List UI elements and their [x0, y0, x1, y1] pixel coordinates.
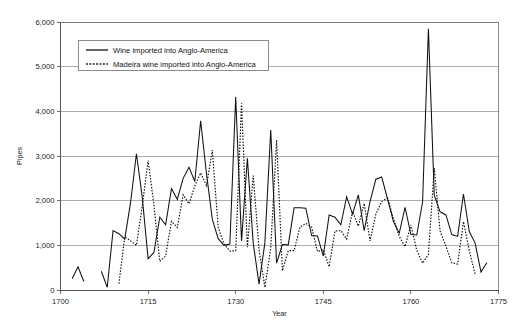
y-tick-label-5000: 5,000 [35, 62, 54, 71]
y-tick-label-6000: 6,000 [35, 18, 54, 27]
legend-label-1: Wine imported into Anglo-America [113, 46, 229, 55]
chart-legend: Wine imported into Anglo-AmericaMadeira … [78, 40, 268, 70]
x-tick-label-1700: 1700 [52, 297, 69, 306]
line-chart: 01,0002,0003,0004,0005,0006,000 17001715… [0, 0, 521, 332]
x-tick-label-1715: 1715 [140, 297, 157, 306]
y-tick-label-1000: 1,000 [35, 241, 54, 250]
y-tick-label-2000: 2,000 [35, 196, 54, 205]
x-axis-title: Year [272, 309, 287, 318]
legend-label-2: Madeira wine imported into Anglo-America [113, 60, 256, 69]
x-tick-label-1775: 1775 [490, 297, 507, 306]
y-tick-label-4000: 4,000 [35, 107, 54, 116]
x-tick-label-1760: 1760 [402, 297, 419, 306]
chart-figure: 01,0002,0003,0004,0005,0006,000 17001715… [0, 0, 521, 332]
x-tick-label-1745: 1745 [315, 297, 332, 306]
y-tick-label-0: 0 [50, 286, 54, 295]
y-axis-title: Pipes [15, 147, 24, 165]
y-tick-label-3000: 3,000 [35, 152, 54, 161]
x-tick-label-1730: 1730 [227, 297, 244, 306]
